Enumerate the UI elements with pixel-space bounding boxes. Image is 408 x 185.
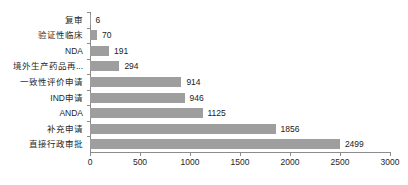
x-axis-tick-label: 1500 <box>231 158 250 167</box>
value-label: 914 <box>181 78 200 87</box>
y-axis-tick <box>87 105 90 106</box>
x-axis-tick-label: 1000 <box>181 158 200 167</box>
bar <box>90 61 119 71</box>
value-label: 1856 <box>276 124 300 133</box>
category-label: 直接行政审批 <box>29 140 83 149</box>
value-label: 6 <box>91 16 101 25</box>
x-axis-tick <box>390 152 391 156</box>
x-axis-tick <box>90 152 91 156</box>
x-axis-tick <box>140 152 141 156</box>
y-axis-tick <box>87 121 90 122</box>
bar-row: IND申请 946 <box>90 90 390 106</box>
x-axis-tick <box>290 152 291 156</box>
bar <box>90 124 276 134</box>
bar <box>90 93 185 103</box>
bar-row: 境外生产药品再... 294 <box>90 59 390 75</box>
bar-chart: 复审 6 验证性临床 70 NDA 191 境外生产药品再... 294 <box>0 0 408 185</box>
category-label: 境外生产药品再... <box>13 62 83 71</box>
y-axis-tick <box>87 74 90 75</box>
bar <box>90 77 181 87</box>
y-axis-tick <box>87 59 90 60</box>
value-label: 1125 <box>203 109 226 118</box>
value-label: 70 <box>97 31 111 40</box>
category-label: ANDA <box>59 109 83 118</box>
category-label: 补充申请 <box>47 124 83 133</box>
y-axis-tick <box>87 90 90 91</box>
y-axis-tick <box>87 12 90 13</box>
y-axis-tick <box>87 136 90 137</box>
bar-row: 复审 6 <box>90 12 390 28</box>
bar-row: 直接行政审批 2499 <box>90 136 390 152</box>
plot-area: 复审 6 验证性临床 70 NDA 191 境外生产药品再... 294 <box>90 12 390 152</box>
category-label: IND申请 <box>50 93 83 102</box>
bar <box>90 30 97 40</box>
x-axis-tick <box>340 152 341 156</box>
x-axis-tick-label: 2500 <box>331 158 350 167</box>
bar-row: NDA 191 <box>90 43 390 59</box>
bar <box>90 108 203 118</box>
x-axis-tick <box>190 152 191 156</box>
bar-row: ANDA 1125 <box>90 105 390 121</box>
bar <box>90 46 109 56</box>
bar-row: 补充申请 1856 <box>90 121 390 137</box>
y-axis-tick <box>87 28 90 29</box>
bar-row: 一致性评价申请 914 <box>90 74 390 90</box>
bar <box>90 139 340 149</box>
value-label: 2499 <box>340 140 364 149</box>
category-label: NDA <box>65 47 83 56</box>
x-axis-tick-label: 2000 <box>281 158 300 167</box>
y-axis-tick <box>87 43 90 44</box>
x-axis-tick <box>240 152 241 156</box>
category-label: 复审 <box>65 16 83 25</box>
value-label: 191 <box>109 47 128 56</box>
x-axis-tick-label: 500 <box>133 158 147 167</box>
value-label: 946 <box>185 93 204 102</box>
x-axis-tick-label: 3000 <box>381 158 400 167</box>
value-label: 294 <box>119 62 138 71</box>
bar-row: 验证性临床 70 <box>90 28 390 44</box>
x-axis-tick-label: 0 <box>88 158 93 167</box>
category-label: 一致性评价申请 <box>20 78 83 87</box>
category-label: 验证性临床 <box>38 31 83 40</box>
